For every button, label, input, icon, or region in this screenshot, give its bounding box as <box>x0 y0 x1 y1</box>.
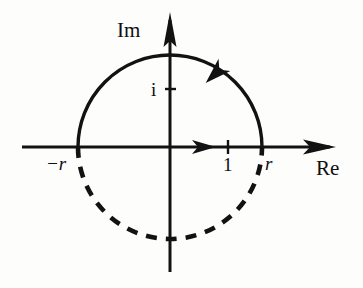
diagram-canvas <box>0 0 363 288</box>
imaginary-axis-label: Im <box>117 20 140 41</box>
tick-label-negative-r: −r <box>46 154 66 173</box>
tick-label-positive-r: r <box>265 154 272 173</box>
complex-plane-contour-figure: Im Re i 1 −r r <box>0 0 363 288</box>
tick-label-imaginary-unit: i <box>151 80 156 99</box>
real-axis-label: Re <box>316 158 339 179</box>
tick-label-one: 1 <box>223 155 233 174</box>
